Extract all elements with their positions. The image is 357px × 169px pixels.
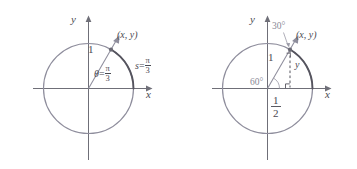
- half-numerator: 1: [271, 94, 281, 107]
- right-arc-highlight: [290, 50, 313, 89]
- right-y-axis-label: y: [250, 14, 255, 25]
- diagram-vector-layer: [0, 0, 357, 169]
- left-point-label: (x, y): [117, 30, 138, 40]
- left-y-axis-arrowhead: [86, 16, 92, 23]
- arc-fraction: π3: [145, 56, 151, 75]
- arc-denominator: 3: [145, 66, 151, 75]
- theta-fraction: π3: [105, 64, 111, 83]
- left-arc-highlight: [111, 50, 134, 89]
- vertical-leg-label: y: [295, 60, 299, 70]
- theta-denominator: 3: [105, 74, 111, 83]
- left-point-marker: [109, 47, 113, 51]
- left-arc-expression: s=π3: [135, 56, 151, 75]
- angle-60-arc: [274, 78, 280, 88]
- half-denominator: 2: [271, 107, 281, 119]
- right-point-label: (x, y): [296, 30, 317, 40]
- left-radius-label: 1: [88, 44, 94, 55]
- left-x-axis-label: x: [146, 89, 151, 100]
- figure-canvas: y x 1 (x, y) θ=π3 s=π3 y x 1 (x, y) 30° …: [0, 0, 357, 169]
- right-x-axis-label: x: [325, 89, 330, 100]
- right-point-marker: [288, 47, 292, 51]
- right-y-axis-arrowhead: [265, 16, 271, 23]
- right-terminal-ray: [268, 40, 296, 89]
- left-y-axis-label: y: [71, 14, 76, 25]
- horizontal-leg-label: 12: [271, 94, 281, 119]
- right-angle-marker-base: [286, 84, 290, 88]
- angle-30-leader-arrowhead: [286, 43, 290, 48]
- right-hypotenuse-label: 1: [268, 52, 274, 63]
- angle-30-label: 30°: [272, 22, 285, 32]
- half-fraction: 12: [271, 94, 281, 119]
- left-angle-expression: θ=π3: [94, 64, 111, 83]
- angle-60-label: 60°: [250, 78, 263, 88]
